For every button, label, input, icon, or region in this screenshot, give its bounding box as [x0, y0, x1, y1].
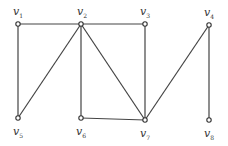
node-v3 [143, 22, 147, 26]
node-v4 [207, 23, 211, 27]
graph-diagram [0, 0, 228, 146]
edge-v2-v7 [81, 24, 145, 120]
edge-v2-v5 [18, 24, 81, 118]
node-v7 [143, 118, 147, 122]
node-label-v7: v7 [140, 128, 150, 141]
node-label-v5: v5 [13, 126, 23, 139]
edges-group [18, 24, 209, 120]
edge-v6-v7 [81, 118, 145, 120]
node-v2 [79, 22, 83, 26]
node-label-v2: v2 [77, 6, 87, 19]
node-label-v1: v1 [13, 6, 23, 19]
node-label-v3: v3 [140, 6, 150, 19]
edge-v4-v7 [145, 25, 209, 120]
node-label-v6: v6 [76, 126, 86, 139]
node-label-v4: v4 [204, 7, 214, 20]
node-v8 [207, 118, 211, 122]
node-v5 [16, 116, 20, 120]
node-v6 [79, 116, 83, 120]
node-v1 [16, 22, 20, 26]
node-label-v8: v8 [204, 128, 214, 141]
